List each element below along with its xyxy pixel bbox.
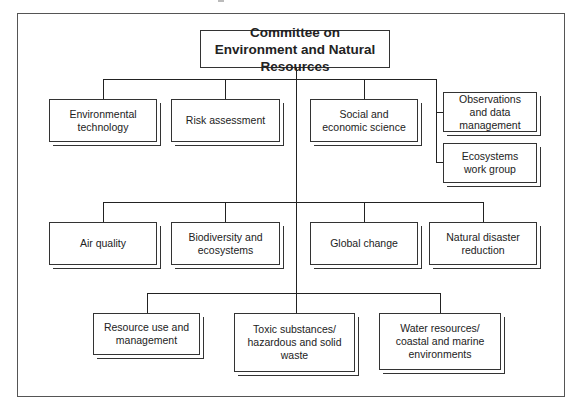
conn-side-branch xyxy=(436,79,437,163)
conn-water xyxy=(440,293,441,313)
node-ecosystems-work-group: Ecosystems work group xyxy=(443,143,537,183)
node-biodiversity-ecosystems: Biodiversity and ecosystems xyxy=(171,222,280,265)
node-resource-use-management: Resource use and management xyxy=(93,313,200,355)
row1-bus xyxy=(103,79,437,80)
node-global-change: Global change xyxy=(310,222,418,265)
node-air-quality: Air quality xyxy=(49,222,157,265)
node-social-economic-science: Social and economic science xyxy=(310,99,418,142)
node-risk-assessment: Risk assessment xyxy=(171,99,280,142)
node-observations-data-management: Observations and data management xyxy=(443,92,537,132)
conn-natural xyxy=(483,202,484,222)
node-environmental-technology: Environmental technology xyxy=(49,99,157,142)
node-natural-disaster-reduction: Natural disaster reduction xyxy=(429,222,537,265)
row3-bus xyxy=(147,293,441,294)
node-toxic-substances: Toxic substances/ hazardous and solid wa… xyxy=(234,313,355,372)
conn-resource xyxy=(147,293,148,313)
conn-air xyxy=(103,202,104,222)
cropped-caption-mark xyxy=(218,0,224,2)
conn-env-tech xyxy=(103,79,104,99)
root-node-committee: Committee on Environment and Natural Res… xyxy=(200,30,390,68)
conn-global xyxy=(364,202,365,222)
row2-bus xyxy=(103,202,484,203)
trunk-connector xyxy=(296,68,297,313)
conn-risk xyxy=(225,79,226,99)
conn-social xyxy=(364,79,365,99)
conn-biodiversity xyxy=(225,202,226,222)
node-water-resources: Water resources/ coastal and marine envi… xyxy=(379,313,501,370)
